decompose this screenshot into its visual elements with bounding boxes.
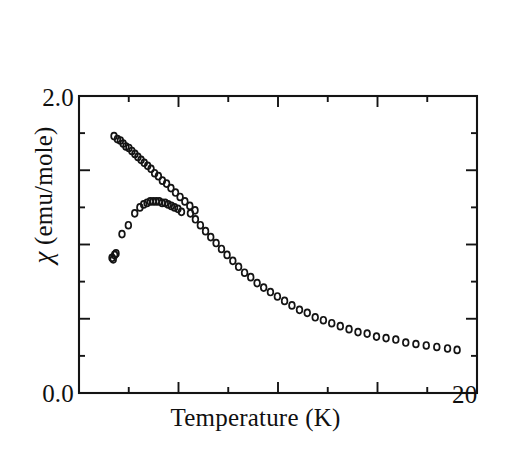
data-point: [321, 317, 327, 324]
data-point: [289, 302, 295, 309]
data-point: [208, 234, 214, 241]
data-point: [282, 297, 288, 304]
data-point: [403, 339, 409, 346]
data-point: [261, 284, 267, 291]
data-point: [275, 293, 281, 300]
data-point: [364, 330, 370, 337]
data-point: [126, 222, 132, 229]
data-points: [109, 133, 460, 354]
data-point: [393, 336, 399, 343]
figure-root: 2.0 0.0 20 Temperature (K) χ (emu/mole): [0, 0, 511, 476]
data-point: [355, 329, 361, 336]
y-axis-title: χ (emu/mole): [26, 75, 61, 315]
data-point: [254, 280, 260, 287]
chi-symbol: χ: [28, 252, 58, 264]
data-series-upper-branch: [111, 133, 198, 214]
data-point: [242, 269, 248, 276]
data-point: [374, 333, 380, 340]
plot-frame: [79, 96, 477, 393]
data-point: [132, 210, 138, 217]
data-point: [203, 228, 209, 235]
data-point: [445, 345, 451, 352]
data-point: [198, 222, 204, 229]
data-point: [329, 320, 335, 327]
data-point: [423, 342, 429, 349]
data-point: [268, 289, 274, 296]
data-point: [219, 245, 225, 252]
data-point: [297, 306, 303, 313]
data-point: [230, 257, 236, 264]
data-point: [337, 323, 343, 330]
data-point: [434, 344, 440, 351]
y-axis-title-rotator: χ (emu/mole): [26, 75, 60, 315]
data-point: [304, 309, 310, 316]
plot-frame-rect: [79, 96, 477, 393]
data-point: [224, 251, 230, 258]
x-axis-title: Temperature (K): [0, 404, 511, 432]
data-point: [383, 335, 389, 342]
data-point: [346, 326, 352, 333]
data-point: [413, 341, 419, 348]
data-point: [213, 240, 219, 247]
data-point: [454, 346, 460, 353]
data-point: [312, 314, 318, 321]
data-series-merged-tail: [188, 210, 460, 354]
y-axis-title-units: (emu/mole): [30, 126, 57, 251]
axis-ticks: [79, 96, 477, 393]
data-series-lower-branch: [109, 198, 184, 263]
data-point: [236, 263, 242, 270]
data-point: [119, 231, 125, 238]
data-point: [193, 216, 199, 223]
data-point: [248, 274, 254, 281]
